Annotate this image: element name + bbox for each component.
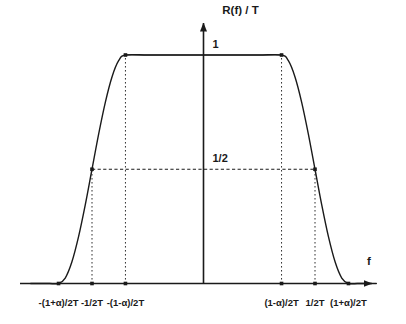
y-tick-label-one: 1	[213, 38, 219, 50]
axis-tick-marker	[313, 282, 317, 286]
plateau-point-marker	[280, 53, 284, 57]
half-amplitude-marker	[313, 167, 317, 171]
x-tick-label: (1+α)/2T	[330, 297, 367, 308]
x-tick-label: -1/2T	[81, 297, 103, 308]
x-tick-label: (1-α)/2T	[264, 297, 299, 308]
axis-tick-marker	[124, 282, 128, 286]
axis-tick-marker	[90, 282, 94, 286]
axis-tick-marker	[347, 282, 351, 286]
y-axis-title: R(f) / T	[222, 4, 258, 16]
axis-tick-marker	[57, 282, 61, 286]
axis-tick-marker	[280, 282, 284, 286]
x-tick-label: -(1+α)/2T	[39, 297, 79, 308]
raised-cosine-figure: -(1+α)/2T-1/2T-(1-α)/2T(1-α)/2T1/2T(1+α)…	[0, 0, 406, 324]
x-axis-title: f	[367, 255, 371, 267]
axes	[20, 23, 372, 284]
x-tick-labels: -(1+α)/2T-1/2T-(1-α)/2T(1-α)/2T1/2T(1+α)…	[39, 297, 367, 308]
plot-canvas: -(1+α)/2T-1/2T-(1-α)/2T(1-α)/2T1/2T(1+α)…	[0, 0, 406, 324]
x-tick-label: 1/2T	[305, 297, 324, 308]
y-tick-label-half: 1/2	[213, 152, 228, 164]
plateau-point-marker	[124, 53, 128, 57]
half-amplitude-marker	[90, 167, 94, 171]
x-tick-label: -(1-α)/2T	[107, 297, 145, 308]
